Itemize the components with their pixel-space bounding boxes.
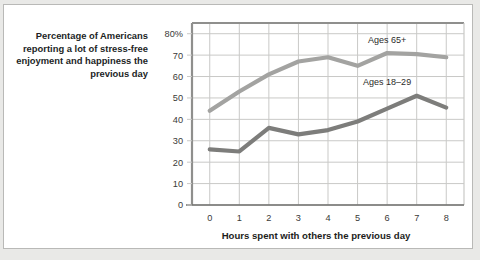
x-tick-label: 8 bbox=[444, 213, 449, 223]
y-tick-label: 80% bbox=[165, 29, 183, 39]
y-tick-label: 70 bbox=[173, 51, 183, 61]
y-tick-label: 0 bbox=[178, 200, 183, 210]
gridlines bbox=[192, 23, 464, 205]
series-label-ages-18-29: Ages 18–29 bbox=[363, 77, 411, 87]
x-tick-label: 3 bbox=[296, 213, 301, 223]
y-axis-ticks: 01020304050607080% bbox=[165, 29, 192, 210]
series-label-ages-65-: Ages 65+ bbox=[368, 35, 406, 45]
x-axis-ticks: 012345678 bbox=[207, 213, 449, 223]
y-tick-label: 10 bbox=[173, 179, 183, 189]
x-tick-label: 0 bbox=[207, 213, 212, 223]
line-chart-svg: 01020304050607080% 012345678 Ages 65+Age… bbox=[146, 13, 470, 245]
plot-frame bbox=[186, 23, 464, 205]
x-axis-title: Hours spent with others the previous day bbox=[222, 230, 411, 241]
y-tick-label: 60 bbox=[173, 72, 183, 82]
x-tick-label: 4 bbox=[325, 213, 330, 223]
x-tick-label: 2 bbox=[266, 213, 271, 223]
y-tick-label: 50 bbox=[173, 93, 183, 103]
chart-caption: Percentage of Americans reporting a lot … bbox=[12, 30, 148, 80]
x-tick-label: 7 bbox=[414, 213, 419, 223]
x-tick-label: 6 bbox=[385, 213, 390, 223]
x-tick-label: 5 bbox=[355, 213, 360, 223]
chart-figure: Percentage of Americans reporting a lot … bbox=[3, 4, 473, 249]
y-tick-label: 30 bbox=[173, 136, 183, 146]
x-tick-label: 1 bbox=[237, 213, 242, 223]
plot-area: 01020304050607080% 012345678 Ages 65+Age… bbox=[146, 13, 470, 245]
y-tick-label: 20 bbox=[173, 158, 183, 168]
y-tick-label: 40 bbox=[173, 115, 183, 125]
